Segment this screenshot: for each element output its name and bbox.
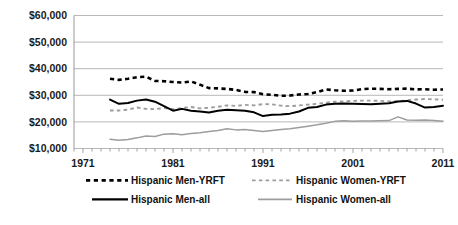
axis-tickmarks — [74, 149, 443, 154]
legend-item[interactable]: Hispanic Men-all — [92, 194, 210, 205]
legend-label: Hispanic Women-all — [296, 194, 391, 205]
gridlines — [74, 16, 443, 149]
legend-label: Hispanic Men-YRFT — [131, 175, 225, 186]
x-axis-tick-label: 1991 — [251, 157, 275, 169]
line-chart: $60,000$50,000$40,000$30,000$20,000$10,0… — [0, 0, 458, 225]
x-axis-tick-label: 2001 — [341, 157, 365, 169]
x-axis-tick-label: 1971 — [71, 157, 95, 169]
y-axis-tick-label: $50,000 — [29, 36, 67, 48]
y-axis-labels: $60,000$50,000$40,000$30,000$20,000$10,0… — [29, 9, 67, 154]
legend-label: Hispanic Women-YRFT — [296, 175, 406, 186]
x-axis-tick-label: 1981 — [161, 157, 185, 169]
chart-legend: Hispanic Men-YRFTHispanic Women-YRFTHisp… — [86, 175, 406, 205]
chart-container: $60,000$50,000$40,000$30,000$20,000$10,0… — [0, 0, 458, 225]
x-axis-labels: 19711981199120012011 — [71, 157, 454, 169]
x-axis-tick-label: 2011 — [432, 157, 455, 169]
y-axis-tick-label: $20,000 — [29, 116, 67, 128]
y-axis-tick-label: $30,000 — [29, 89, 67, 101]
y-axis-tick-label: $40,000 — [29, 62, 67, 74]
legend-item[interactable]: Hispanic Women-all — [258, 194, 391, 205]
legend-item[interactable]: Hispanic Men-YRFT — [86, 175, 225, 186]
legend-label: Hispanic Men-all — [131, 194, 210, 205]
y-axis-tick-label: $10,000 — [29, 142, 67, 154]
y-axis-tick-label: $60,000 — [29, 9, 67, 21]
data-series — [110, 77, 443, 141]
series-line-hispanic-men-yrft — [110, 77, 443, 96]
legend-item[interactable]: Hispanic Women-YRFT — [252, 175, 406, 186]
series-line-hispanic-women-all — [110, 117, 443, 140]
